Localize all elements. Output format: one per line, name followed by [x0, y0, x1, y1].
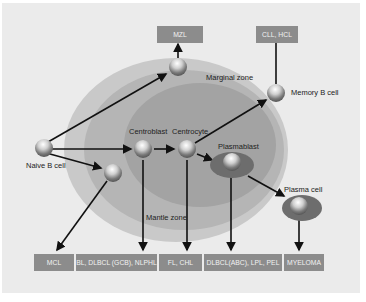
naive-b-cell-label: Naive B cell [26, 162, 66, 170]
dlbcl-abc-lpl-pel-box: DLBCL(ABC), LPL, PEL [204, 254, 282, 271]
centroblast-icon [134, 140, 152, 158]
fl-chl-box: FL, CHL [159, 254, 202, 271]
memory-b-cell-icon [267, 84, 285, 102]
centroblast-label: Centroblast [129, 128, 167, 136]
centrocyte-icon [178, 140, 196, 158]
marginal-zone-label: Marginal zone [206, 74, 253, 82]
naive-b-cell-icon [35, 139, 53, 157]
mcl-box: MCL [34, 254, 74, 271]
marginal-cell-icon [169, 58, 187, 76]
mantle-cell-icon [104, 164, 122, 182]
myeloma-box: MYELOMA [284, 254, 324, 271]
bl-dlbcl-nlphl-box: BL, DLBCL (GCB), NLPHL [76, 254, 157, 271]
plasma-cell-icon [290, 197, 308, 215]
plasma-cell-label: Plasma cell [284, 186, 322, 194]
memory-b-cell-label: Memory B cell [291, 89, 339, 97]
plasmablast-icon [223, 153, 241, 171]
centrocyte-label: Centrocyte [172, 128, 208, 136]
mzl-box: MZL [157, 26, 203, 43]
plasmablast-label: Plasmablast [218, 143, 259, 151]
cll-hcl-box: CLL, HCL [256, 26, 298, 43]
mantle-zone-label: Mantle zone [146, 214, 187, 222]
